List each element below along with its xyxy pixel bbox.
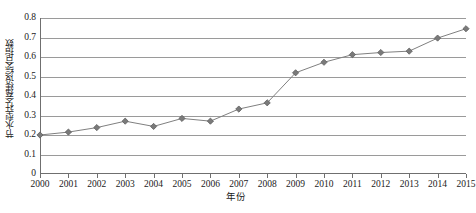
data-point-marker (349, 52, 355, 58)
y-tick-label: 0.6 (24, 52, 36, 62)
data-point-marker (435, 35, 441, 41)
data-point-marker (65, 129, 71, 135)
x-tick-mark (381, 174, 382, 178)
data-point-marker (236, 106, 242, 112)
data-point-marker (378, 49, 384, 55)
y-tick-label: 0.1 (24, 150, 36, 160)
data-point-marker (321, 59, 327, 65)
x-tick-label: 2002 (87, 179, 106, 189)
y-tick-label: 0.5 (24, 72, 36, 82)
x-tick-mark (154, 174, 155, 178)
x-tick-label: 2013 (400, 179, 419, 189)
data-point-marker (463, 26, 469, 32)
x-tick-label: 2000 (31, 179, 50, 189)
y-tick-label: 0.2 (24, 130, 36, 140)
data-point-marker (94, 124, 100, 130)
y-tick-label: 0.8 (24, 13, 36, 23)
x-tick-mark (409, 174, 410, 178)
x-tick-label: 2015 (457, 179, 476, 189)
series-line (40, 29, 466, 135)
plot-area (40, 18, 466, 174)
x-tick-label: 2009 (286, 179, 305, 189)
data-series-line (40, 18, 466, 174)
x-tick-label: 2001 (59, 179, 78, 189)
y-tick-label: 0.7 (24, 33, 36, 43)
x-axis-tick-marks (40, 174, 466, 178)
x-tick-mark (97, 174, 98, 178)
x-tick-mark (239, 174, 240, 178)
x-tick-label: 2014 (428, 179, 447, 189)
x-tick-mark (296, 174, 297, 178)
x-tick-label: 2003 (116, 179, 135, 189)
data-point-marker (406, 48, 412, 54)
y-axis-title-text: 节水型社会建设综合指数 (5, 39, 14, 138)
x-tick-mark (324, 174, 325, 178)
x-tick-label: 2010 (315, 179, 334, 189)
y-axis-tick-labels: 00.10.20.30.40.50.60.70.8 (16, 0, 38, 176)
x-tick-mark (40, 174, 41, 178)
x-tick-mark (438, 174, 439, 178)
x-tick-mark (466, 174, 467, 178)
y-tick-label: 0 (31, 169, 36, 179)
x-tick-mark (68, 174, 69, 178)
x-tick-mark (125, 174, 126, 178)
data-point-marker (179, 115, 185, 121)
x-tick-label: 2007 (229, 179, 248, 189)
x-tick-mark (182, 174, 183, 178)
y-tick-label: 0.4 (24, 91, 36, 101)
data-point-marker (207, 118, 213, 124)
x-axis-title: 年份 (0, 193, 472, 203)
x-tick-label: 2011 (343, 179, 362, 189)
x-tick-mark (210, 174, 211, 178)
x-tick-label: 2004 (144, 179, 163, 189)
y-tick-label: 0.3 (24, 111, 36, 121)
x-tick-label: 2012 (371, 179, 390, 189)
data-point-marker (151, 123, 157, 129)
x-axis-tick-labels: 2000200120022003200420052006200720082009… (40, 179, 466, 193)
x-tick-mark (267, 174, 268, 178)
data-point-marker (122, 118, 128, 124)
x-tick-label: 2008 (258, 179, 277, 189)
x-tick-label: 2005 (173, 179, 192, 189)
x-tick-mark (352, 174, 353, 178)
x-tick-label: 2006 (201, 179, 220, 189)
